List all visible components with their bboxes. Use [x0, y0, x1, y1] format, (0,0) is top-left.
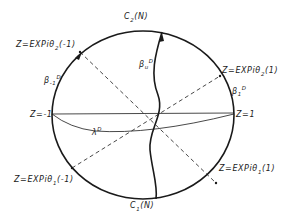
- label-z-theta1-plus: Z=EXPiθ1(1): [219, 164, 275, 175]
- label-c1: C1(N): [130, 201, 154, 212]
- label-z-minus-one: Z=-1: [30, 110, 53, 119]
- label-c2: C2(N): [124, 12, 148, 23]
- lambda-curve: [52, 114, 234, 132]
- label-beta-plus: β1D: [232, 85, 247, 97]
- label-z-theta2-plus: Z=EXPiθ2(1): [222, 66, 278, 77]
- diagram-canvas: C2(N) Z=EXPiθ2(-1) β-1D βuD Z=EXPiθ2(1) …: [0, 0, 298, 223]
- label-lambda: λD: [92, 126, 102, 137]
- dashed-chord-theta2: [80, 52, 216, 183]
- label-z-theta1-minus: Z=EXPiθ1(-1): [14, 175, 74, 186]
- label-z-one: Z=1: [236, 110, 255, 119]
- label-beta-minus: β-1D: [44, 74, 61, 86]
- label-beta-u: βuD: [139, 58, 154, 70]
- label-z-theta2-minus: Z=EXPiθ2(-1): [16, 40, 76, 51]
